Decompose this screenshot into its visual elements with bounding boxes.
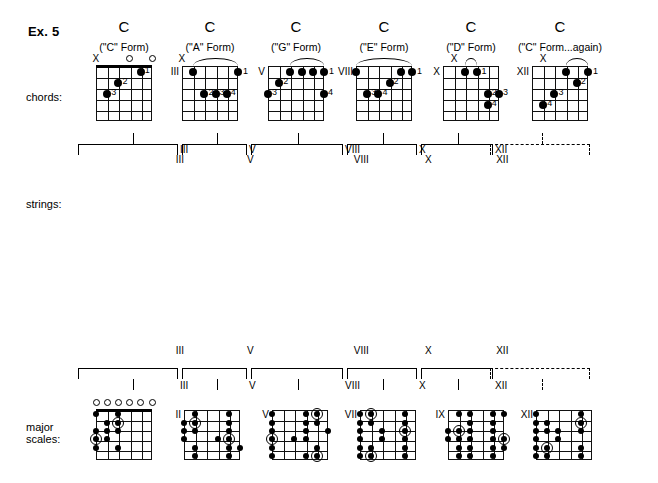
chord-finger-number: 4 [328, 88, 333, 97]
string-line [544, 67, 545, 120]
nut-bar [96, 409, 152, 412]
chord-finger-dot [200, 90, 208, 98]
scale-position-label: II [160, 410, 181, 420]
fretboard-fret-label-top: III [176, 155, 184, 165]
bracket-end [421, 144, 422, 155]
scale-note-dot [269, 453, 275, 459]
scale-note-dot [544, 453, 550, 459]
fret-line [269, 100, 323, 101]
open-string-marker [149, 399, 156, 406]
chord-finger-dot [320, 90, 328, 98]
bracket-span [182, 144, 247, 145]
scale-fret-grid [96, 410, 152, 460]
fret-line [533, 111, 587, 112]
exercise-label: Ex. 5 [28, 24, 59, 39]
fret-line [97, 111, 151, 112]
chord-finger-dot [114, 79, 122, 87]
barre-arc [566, 58, 588, 66]
scale-note-dot [226, 411, 232, 417]
chord-finger-dot [484, 101, 492, 109]
string-line [119, 67, 120, 120]
string-line [391, 67, 392, 120]
fret-range-bracket: XII [421, 368, 493, 394]
chord-finger-number: 2 [581, 77, 586, 86]
chord-finger-dot [484, 90, 492, 98]
chord-finger-dot [212, 90, 220, 98]
bracket-end [490, 144, 491, 155]
row-label-chords: chords: [26, 91, 62, 103]
scale-note-dot [357, 445, 363, 451]
bracket-span [78, 368, 178, 369]
bracket-end [347, 144, 348, 155]
bracket-span [182, 368, 247, 369]
bracket-span [490, 368, 590, 369]
muted-string-marker: X [93, 54, 100, 64]
scale-note-dot [490, 453, 496, 459]
scale-note-dot [467, 445, 473, 451]
chord-finger-dot [352, 68, 360, 76]
chord-finger-dot [495, 90, 503, 98]
bracket-end [416, 144, 417, 155]
bracket-tick [458, 133, 459, 144]
fret-line [185, 451, 239, 452]
scale-note-dot [402, 445, 408, 451]
string-line [578, 67, 579, 120]
chord-finger-dot [461, 68, 469, 76]
scale-note-dot [578, 453, 584, 459]
string-line [455, 67, 456, 120]
chord-finger-dot [298, 68, 306, 76]
chord-position-label: X [417, 67, 440, 77]
fret-line [183, 78, 237, 79]
scale-note-dot [226, 420, 232, 426]
open-string-marker [137, 399, 144, 406]
chord-finger-dot [223, 90, 231, 98]
chord-finger-dot [397, 68, 405, 76]
scale-note-dot [402, 428, 408, 434]
fret-line [273, 431, 327, 432]
fretboard-fret-label-bottom: X [425, 346, 432, 356]
bracket-span [347, 368, 417, 369]
chord-finger-number: 3 [503, 88, 508, 97]
bracket-end [342, 368, 343, 379]
open-string-marker [93, 399, 100, 406]
scale-note-dot [93, 445, 99, 451]
chord-position-label: III [156, 67, 179, 77]
fret-line [357, 78, 411, 79]
bracket-tick [383, 133, 384, 144]
fret-range-bracket: VIII [251, 133, 343, 159]
bracket-end [182, 368, 183, 379]
chord-finger-number: 1 [593, 67, 598, 76]
scale-note-dot [456, 453, 462, 459]
bracket-tick [542, 133, 543, 144]
chord-finger-number: 2 [283, 77, 288, 86]
chord-finger-dot [234, 68, 242, 76]
barre-arc [465, 58, 476, 66]
barre-arc [193, 58, 238, 66]
scale-note-dot [533, 453, 539, 459]
bracket-end [342, 144, 343, 155]
scale-note-dot [533, 428, 539, 434]
fret-line [183, 100, 237, 101]
chord-finger-dot [137, 68, 145, 76]
scale-note-dot [314, 411, 320, 417]
bracket-span [251, 368, 343, 369]
chord-root-name: C [96, 18, 152, 35]
bracket-tick [133, 133, 134, 144]
scale-note-dot [325, 428, 331, 434]
chord-finger-dot [286, 68, 294, 76]
open-string-marker [126, 55, 133, 62]
bracket-end [589, 368, 590, 379]
scale-note-dot [192, 445, 198, 451]
bracket-end [246, 368, 247, 379]
chord-form-label: ("C" Form...again) [505, 41, 615, 53]
bracket-tick [217, 379, 218, 390]
bracket-span [421, 144, 493, 145]
chord-finger-dot [103, 90, 111, 98]
scale-note-dot [490, 411, 496, 417]
bracket-end [251, 368, 252, 379]
bracket-end [416, 368, 417, 379]
muted-string-marker: X [451, 54, 458, 64]
scale-note-dot [226, 436, 232, 442]
scale-note-dot [490, 428, 496, 434]
bracket-tick [298, 379, 299, 390]
